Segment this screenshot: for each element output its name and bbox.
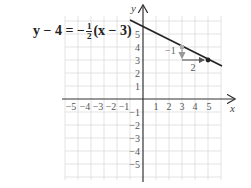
y-tick: 3: [135, 55, 140, 66]
y-tick: 4: [135, 42, 140, 53]
x-tick: −3: [93, 101, 104, 112]
x-tick: −2: [106, 101, 117, 112]
equation-rhs: (x − 3): [93, 23, 131, 38]
x-tick: 4: [193, 101, 198, 112]
y-tick: −4: [129, 146, 140, 157]
x-tick: −1: [119, 101, 130, 112]
x-tick: 5: [207, 101, 212, 112]
start-point: [180, 45, 184, 49]
equation: y − 4 = −12(x − 3): [33, 22, 132, 41]
y-tick: −3: [129, 133, 140, 144]
y-tick: −5: [129, 159, 140, 170]
y-tick: −1: [129, 107, 140, 118]
equation-lhs: y − 4 =: [33, 23, 73, 38]
y-tick: −2: [129, 120, 140, 131]
x-tick: −4: [80, 101, 91, 112]
equation-sign: −: [77, 23, 85, 38]
x-tick: 3: [180, 101, 185, 112]
x-tick: −5: [66, 101, 77, 112]
fraction-denominator: 2: [86, 32, 93, 41]
y-tick: 2: [135, 68, 140, 79]
y-tick: 1: [135, 81, 140, 92]
x-tick: 2: [167, 101, 172, 112]
y-axis-label: y: [130, 2, 136, 14]
fraction: 12: [86, 22, 93, 41]
end-point: [206, 58, 211, 63]
x-axis-label: x: [229, 102, 235, 114]
rise-label: −1: [165, 45, 176, 56]
run-label: 2: [191, 62, 196, 73]
x-tick: 1: [154, 101, 159, 112]
y-tick: 5: [135, 29, 140, 40]
